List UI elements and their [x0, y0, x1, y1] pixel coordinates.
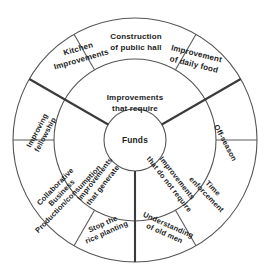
outer-label-construction-public-hall-line2: of public hall — [110, 43, 161, 52]
outer-label-improving-fellowship: Improving fellowship — [24, 111, 58, 153]
outer-label-understanding-old-men: Understanding of old men — [138, 210, 195, 249]
outer-label-construction-public-hall-line1: Construction — [110, 32, 162, 41]
middle-label-top-line1: Improvements — [107, 93, 164, 102]
outer-label-construction-public-hall: Construction of public hall — [110, 32, 162, 52]
spoke-divider-upper-right — [162, 79, 241, 125]
radial-diagram: Funds Improvements that require Improvem… — [0, 0, 271, 278]
center-node-funds-label: Funds — [122, 135, 148, 145]
middle-label-top-line2: that require — [112, 104, 158, 113]
middle-label-improvements-that-require: Improvements that require — [107, 93, 164, 113]
